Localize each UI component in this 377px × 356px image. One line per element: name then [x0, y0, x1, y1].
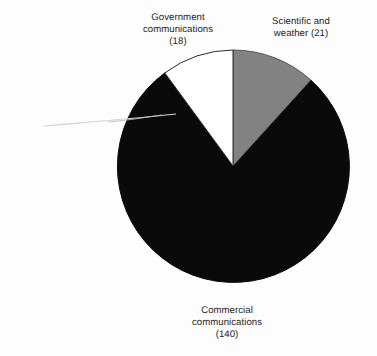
- pie-chart-canvas: [0, 0, 377, 356]
- pie-label-commercial-communications: Commercial communications (140): [162, 305, 292, 342]
- pie-label-scientific-and-weather: Scientific and weather (21): [249, 16, 353, 40]
- pie-label-government-communications: Government communications (18): [117, 12, 239, 49]
- pie-chart-figure: Government communications (18) Scientifi…: [0, 0, 377, 356]
